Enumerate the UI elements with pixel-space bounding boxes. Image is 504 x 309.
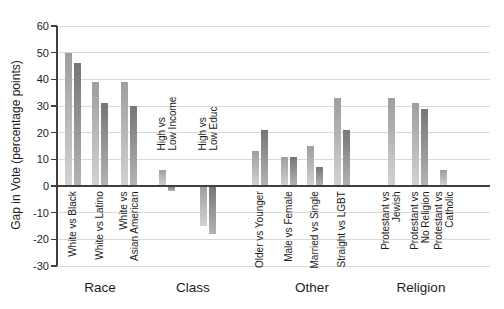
- category-label-line: Straight vs LGBT: [337, 191, 348, 283]
- category-label: Protestant vsJewish: [381, 191, 402, 283]
- category-label-line: Protestant vs: [381, 191, 392, 283]
- category-label: High vsLow Income: [156, 58, 177, 150]
- category-label-line: Older vs Younger: [255, 191, 266, 283]
- category-label-line: Male vs Female: [283, 191, 294, 283]
- bar-light: [440, 170, 447, 186]
- category-label: White vsAsian American: [118, 191, 139, 283]
- y-axis-line: [56, 26, 58, 266]
- x-axis-zero-line: [57, 185, 490, 187]
- bar-dark: [130, 106, 137, 186]
- tick-label: 60: [19, 20, 49, 32]
- category-label-line: Jewish: [391, 191, 402, 283]
- bar-light: [159, 170, 166, 186]
- tick-label: 0: [19, 180, 49, 192]
- y-axis-title: Gap in Vote (percentage points): [9, 35, 23, 255]
- tick-label: 30: [19, 100, 49, 112]
- category-label: White vs Black: [68, 191, 79, 283]
- category-label-line: Protestant vs: [409, 191, 420, 283]
- tick-label: 40: [19, 73, 49, 85]
- category-label: White vs Latino: [95, 191, 106, 283]
- category-label-line: Low Educ: [208, 58, 219, 150]
- group-label: Other: [257, 280, 367, 295]
- category-label-line: No Religion: [420, 191, 431, 283]
- gridline: [57, 26, 490, 27]
- bar-dark: [290, 157, 297, 186]
- bar-light: [92, 82, 99, 186]
- category-label-line: White vs Latino: [95, 191, 106, 283]
- bar-light: [388, 98, 395, 186]
- bar-dark: [343, 130, 350, 186]
- category-label: Married vs Single: [310, 191, 321, 283]
- bar-light: [200, 186, 207, 226]
- category-label: Older vs Younger: [255, 191, 266, 283]
- gridline: [57, 79, 490, 80]
- bar-light: [412, 103, 419, 186]
- bar-dark: [74, 63, 81, 186]
- bar-dark: [101, 103, 108, 186]
- category-label-line: White vs Black: [68, 191, 79, 283]
- category-label-line: White vs: [118, 191, 129, 283]
- category-label: High vsLow Educ: [197, 58, 218, 150]
- bar-dark: [261, 130, 268, 186]
- tick-label: -10: [19, 207, 49, 219]
- bar-chart-figure: Gap in Vote (percentage points) 60504030…: [0, 0, 504, 309]
- bar-light: [121, 82, 128, 186]
- bar-light: [65, 53, 72, 186]
- category-label-line: High vs: [197, 58, 208, 150]
- tick-label: -30: [19, 260, 49, 272]
- category-label-line: Protestant vs: [433, 191, 444, 283]
- bar-dark: [316, 167, 323, 186]
- category-label-line: High vs: [156, 58, 167, 150]
- category-label: Straight vs LGBT: [337, 191, 348, 283]
- bar-light: [307, 146, 314, 186]
- category-label-line: Catholic: [444, 191, 455, 283]
- bar-light: [334, 98, 341, 186]
- category-label: Protestant vsCatholic: [433, 191, 454, 283]
- category-label: Protestant vsNo Religion: [409, 191, 430, 283]
- category-label: Male vs Female: [283, 191, 294, 283]
- group-label: Class: [138, 280, 248, 295]
- category-label-line: Married vs Single: [310, 191, 321, 283]
- bar-light: [252, 151, 259, 186]
- group-label: Religion: [366, 280, 476, 295]
- bar-dark: [209, 186, 216, 234]
- tick-label: 20: [19, 127, 49, 139]
- tick-label: 50: [19, 47, 49, 59]
- category-label-line: Asian American: [129, 191, 140, 283]
- category-label-line: Low Income: [167, 58, 178, 150]
- tick-label: 10: [19, 153, 49, 165]
- bar-light: [281, 157, 288, 186]
- tick-label: -20: [19, 233, 49, 245]
- bar-dark: [421, 109, 428, 186]
- gridline: [57, 52, 490, 53]
